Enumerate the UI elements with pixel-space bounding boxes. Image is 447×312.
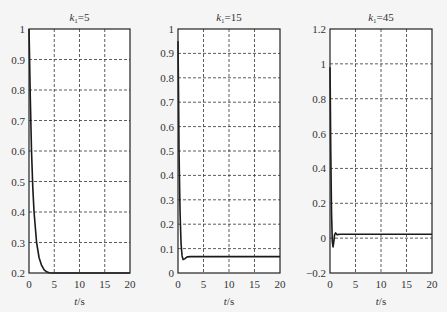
y-tick-label: 0.1 [160,243,174,255]
y-tick-label: 0.5 [160,145,174,157]
x-axis-label: t/s [376,295,386,307]
y-tick-label: 0.8 [312,93,326,105]
y-tick-label: 0.5 [11,176,25,188]
subplot-title: k1=45 [368,11,394,25]
x-axis-label: t/s [74,295,84,307]
y-tick-label: 0.6 [11,145,25,157]
y-tick-label: 1.2 [312,23,326,35]
y-tick-label: 0 [321,232,327,244]
x-tick-label: 5 [52,278,58,290]
y-tick-label: 0.3 [11,237,25,249]
subplot-title: k1=15 [216,11,242,25]
x-tick-label: 20 [125,278,137,290]
y-tick-label: 1 [321,58,327,70]
subplot-1: 0.20.30.40.50.60.70.80.9105101520t/sk1=5 [11,11,136,307]
y-tick-label: 0.2 [160,218,174,230]
x-tick-label: 5 [201,278,207,290]
y-tick-label: 0.7 [11,115,25,127]
x-tick-label: 5 [353,278,359,290]
subplot-3: −0.200.20.40.60.811.205101520t/sk1=45 [306,11,438,307]
y-tick-label: 0.8 [160,72,174,84]
y-tick-label: 0.6 [312,128,326,140]
x-tick-label: 10 [224,278,236,290]
y-tick-label: 0.9 [11,54,25,66]
x-tick-label: 15 [249,278,261,290]
x-tick-label: 0 [175,278,181,290]
x-tick-label: 10 [74,278,86,290]
y-tick-label: 0.3 [160,194,174,206]
subplot-title: k1=5 [69,11,90,25]
x-axis-label: t/s [224,295,234,307]
y-tick-label: 0.4 [11,206,25,218]
x-tick-label: 0 [327,278,333,290]
y-tick-label: 0.6 [160,121,174,133]
x-tick-label: 15 [99,278,111,290]
y-tick-label: 0.8 [11,84,25,96]
y-tick-label: 0 [169,267,175,279]
subplot-2: 00.10.20.30.40.50.60.70.80.9105101520t/s… [160,11,286,307]
y-tick-label: 0.7 [160,96,174,108]
y-tick-label: 0.9 [160,47,174,59]
y-tick-label: 0.4 [312,162,326,174]
x-tick-label: 20 [427,278,439,290]
x-tick-label: 10 [376,278,388,290]
y-tick-label: 0.4 [160,169,174,181]
x-tick-label: 15 [401,278,413,290]
y-tick-label: −0.2 [306,267,326,279]
x-tick-label: 20 [275,278,287,290]
chart-figure: 0.20.30.40.50.60.70.80.9105101520t/sk1=5… [0,0,447,312]
y-tick-label: 0.2 [312,197,326,209]
y-tick-label: 1 [20,23,26,35]
x-tick-label: 0 [26,278,32,290]
y-tick-label: 1 [169,23,175,35]
y-tick-label: 0.2 [11,267,25,279]
